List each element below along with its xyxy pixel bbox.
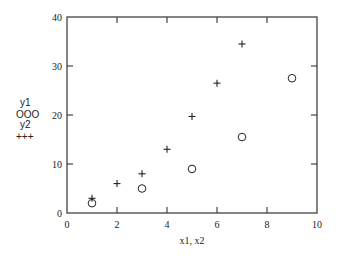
point-y1 (138, 185, 146, 193)
point-y1 (288, 74, 296, 82)
point-y2 (239, 40, 246, 47)
point-y2 (164, 146, 171, 153)
x-tick-label: 10 (312, 219, 322, 230)
legend-symbol-y2: +++ (16, 131, 34, 142)
x-tick-label: 0 (65, 219, 70, 230)
y-tick-label: 40 (52, 12, 62, 23)
x-tick-label: 8 (265, 219, 270, 230)
legend-label-y2: y2 (20, 119, 31, 130)
y-tick-label: 10 (52, 159, 62, 170)
legend: y1 OOO y2 +++ (16, 97, 40, 142)
y-tick-label: 30 (52, 61, 62, 72)
x-tick-label: 6 (215, 219, 220, 230)
x-axis-title: x1, x2 (180, 235, 205, 246)
legend-label-y1: y1 (20, 97, 31, 108)
x-tick-label: 2 (115, 219, 120, 230)
scatter-chart: 0246810010203040 x1, x2 y1 OOO y2 +++ (0, 0, 339, 258)
point-y1 (188, 165, 196, 173)
y-tick-label: 20 (52, 110, 62, 121)
point-y2 (214, 80, 221, 87)
x-tick-label: 4 (165, 219, 170, 230)
point-y2 (139, 170, 146, 177)
point-y1 (238, 133, 246, 141)
data-marks (88, 40, 296, 207)
point-y2 (114, 180, 121, 187)
y-tick-label: 0 (57, 208, 62, 219)
point-y2 (189, 113, 196, 120)
